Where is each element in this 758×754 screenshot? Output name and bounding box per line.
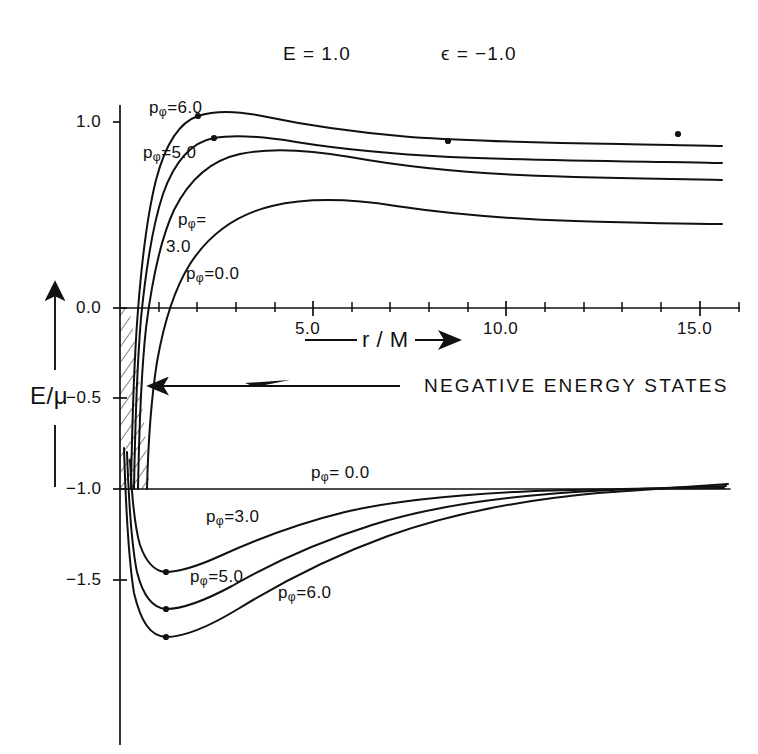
curve-label-lower-3: pφ=3.0 [206, 508, 259, 528]
curve-label-upper-0: pφ=0.0 [186, 265, 239, 285]
lower-curves [120, 448, 730, 637]
x-tick-label-3: 15.0 [677, 320, 712, 337]
y-tick-label-1: 1.0 [76, 113, 101, 130]
negative-energy-states-label: NEGATIVE ENERGY STATES [424, 376, 729, 395]
curve-label-upper-3-value: 3.0 [166, 238, 191, 255]
x-tick-label-2: 10.0 [483, 320, 518, 337]
y-axis-title: E/μ [30, 384, 68, 408]
y-tick-label-5: −1.5 [66, 571, 102, 588]
curve-lower-pphi-6 [124, 448, 728, 637]
curve-label-lower-6: pφ=6.0 [278, 584, 331, 604]
curve-label-lower-5: pφ=5.0 [190, 568, 243, 588]
upper-curves [131, 112, 722, 489]
x-tick-marks-minor [159, 302, 739, 312]
y-tick-label-3: −0.5 [66, 389, 102, 406]
curve-upper-pphi-5 [134, 136, 722, 489]
curve-label-lower-0: pφ= 0.0 [311, 464, 370, 484]
x-tick-label-1: 5.0 [295, 320, 320, 337]
curve-upper-pphi-0 [147, 200, 722, 489]
x-axis-title: r / M [362, 329, 409, 351]
curve-upper-pphi-3 [138, 150, 722, 489]
negative-energy-pointer-arrow [150, 380, 400, 387]
curve-label-upper-5: pφ=5.0 [143, 144, 196, 164]
param-E-label: E = 1.0 [283, 44, 351, 63]
y-tick-label-2: 0.0 [76, 299, 101, 316]
curve-label-upper-3: pφ= [178, 211, 207, 231]
param-epsilon-label: ϵ = −1.0 [441, 44, 517, 63]
curve-label-upper-6: pφ=6.0 [149, 99, 202, 119]
figure-container: E = 1.0 ϵ = −1.0 1.0 0.0 −0.5 −1.0 −1.5 … [0, 0, 758, 754]
y-tick-label-4: −1.0 [66, 480, 102, 497]
